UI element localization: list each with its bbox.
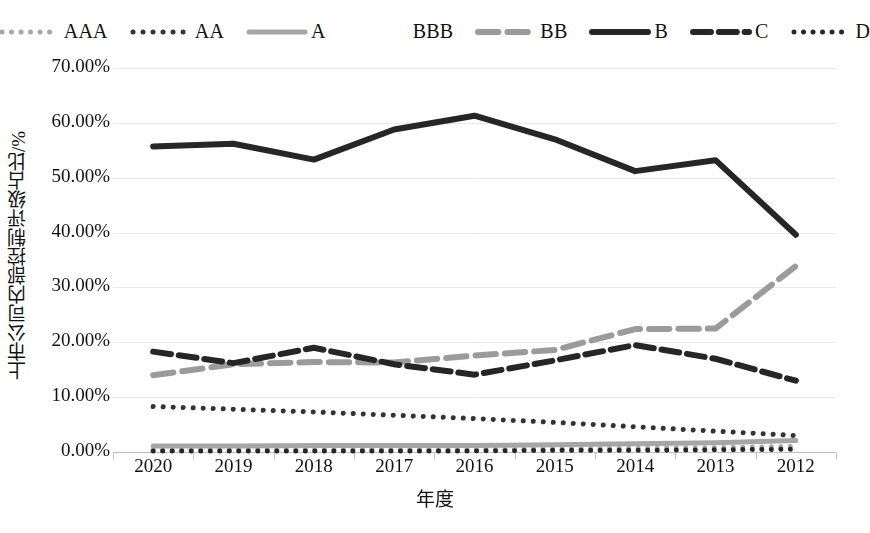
- x-axis-tick-label: 2020: [113, 455, 193, 477]
- x-axis-tick-label: 2019: [193, 455, 273, 477]
- x-axis-tick-label: 2018: [274, 455, 354, 477]
- y-axis-tick-label: 50.00%: [18, 165, 110, 187]
- x-axis-title: 年度: [0, 484, 869, 511]
- x-axis-tick-label: 2013: [675, 455, 755, 477]
- y-axis-tick-label: 70.00%: [18, 55, 110, 77]
- x-axis-tick-label: 2015: [515, 455, 595, 477]
- x-axis-tick-label: 2014: [595, 455, 675, 477]
- y-axis-tick-label: 10.00%: [18, 384, 110, 406]
- x-axis-tick-label: 2016: [434, 455, 514, 477]
- y-axis-tick-label: 40.00%: [18, 220, 110, 242]
- y-axis-tick-label: 20.00%: [18, 329, 110, 351]
- x-axis-tick-label: 2017: [354, 455, 434, 477]
- y-axis-tick-label: 60.00%: [18, 110, 110, 132]
- x-axis-tick-label: 2012: [756, 455, 836, 477]
- y-axis-tick-label: 0.00%: [18, 439, 110, 461]
- y-axis-tick-label: 30.00%: [18, 274, 110, 296]
